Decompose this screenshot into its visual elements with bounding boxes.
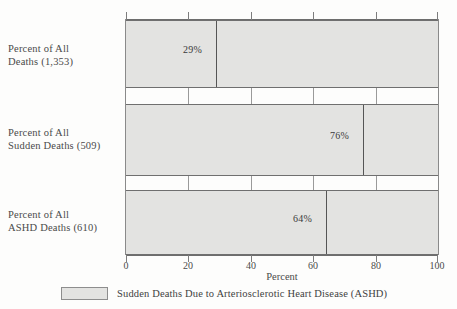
category-label-line1: Percent of All: [8, 42, 120, 55]
axis-rule-bottom: [126, 255, 438, 256]
xtick-label-20: 20: [183, 260, 193, 271]
bar-divider-29: [216, 21, 217, 87]
tick-top-80: [376, 12, 377, 20]
bar-divider-76: [363, 105, 364, 175]
tick-gap1-20: [188, 88, 189, 105]
chart-legend: Sudden Deaths Due to Arteriosclerotic He…: [61, 287, 387, 300]
category-label-line2: Sudden Deaths (509): [8, 139, 120, 152]
plot-area: 29% 76% 64% 0 20 40 60 80 100: [126, 20, 438, 255]
tick-gap2-80: [376, 176, 377, 191]
tick-gap1-60: [313, 88, 314, 105]
category-label-all-deaths: Percent of All Deaths (1,353): [8, 42, 120, 68]
chart-figure: Percent of All Deaths (1,353) Percent of…: [0, 0, 457, 309]
tick-gap2-20: [188, 176, 189, 191]
category-label-ashd-deaths: Percent of All ASHD Deaths (610): [8, 208, 120, 234]
bar-value-ashd-deaths: 64%: [293, 213, 312, 224]
category-label-line1: Percent of All: [8, 208, 120, 221]
xtick-label-80: 80: [371, 260, 381, 271]
xtick-label-60: 60: [308, 260, 318, 271]
bar-value-sudden-deaths: 76%: [330, 130, 349, 141]
legend-swatch-ashd: [61, 287, 108, 300]
tick-gap2-40: [251, 176, 252, 191]
category-label-line2: Deaths (1,353): [8, 55, 120, 68]
bar-value-all-deaths: 29%: [183, 44, 202, 55]
category-label-line1: Percent of All: [8, 126, 120, 139]
category-label-sudden-deaths: Percent of All Sudden Deaths (509): [8, 126, 120, 152]
tick-top-0: [126, 12, 127, 20]
tick-top-60: [313, 12, 314, 20]
bar-ashd-deaths: 64%: [126, 190, 438, 255]
bar-all-deaths: 29%: [126, 20, 438, 88]
xtick-label-100: 100: [430, 260, 445, 271]
axis-spine-right: [438, 19, 439, 255]
legend-label-ashd: Sudden Deaths Due to Arteriosclerotic He…: [117, 288, 387, 299]
tick-top-20: [188, 12, 189, 20]
tick-gap1-40: [251, 88, 252, 105]
tick-top-100: [437, 12, 438, 20]
bar-divider-64: [326, 191, 327, 254]
xtick-label-40: 40: [246, 260, 256, 271]
bar-sudden-deaths: 76%: [126, 104, 438, 176]
tick-top-40: [251, 12, 252, 20]
tick-gap2-60: [313, 176, 314, 191]
tick-gap1-80: [376, 88, 377, 105]
xaxis-title: Percent: [126, 271, 438, 282]
category-label-line2: ASHD Deaths (610): [8, 221, 120, 234]
xtick-label-0: 0: [124, 260, 129, 271]
